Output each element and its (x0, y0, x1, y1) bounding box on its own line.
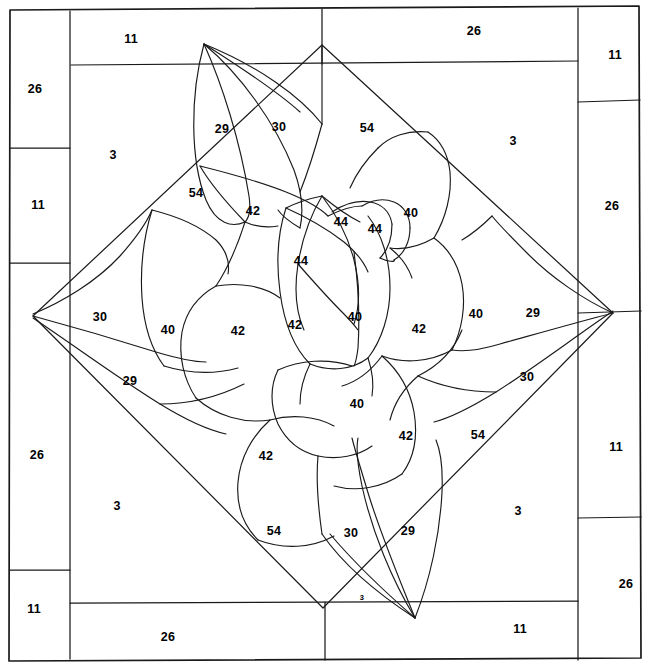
diamond-field-outline (33, 45, 613, 608)
leaf-label-top-left-30: 30 (272, 121, 286, 134)
border-label-right-2: 26 (605, 200, 619, 213)
leaf-label-left-29: 29 (123, 375, 137, 388)
border-label-bottom-2: 11 (513, 623, 527, 636)
quilt-pattern-sheet: 11 26 26 11 26 11 26 11 11 26 11 26 3 3 … (0, 0, 647, 665)
petal-label-right-40: 40 (469, 308, 483, 321)
border-label-left-2: 11 (31, 199, 45, 212)
diamond-label-bottom-left: 54 (267, 525, 281, 538)
petal-label-lower-right-42: 42 (399, 430, 413, 443)
background-label-bottom-right: 3 (514, 505, 521, 518)
border-label-top-2: 26 (467, 25, 481, 38)
background-label-small-wedge: 3 (360, 594, 364, 602)
leaf-group-left (33, 210, 244, 434)
leaf-group-top (194, 44, 322, 228)
background-label-top-left: 3 (109, 149, 116, 162)
border-label-left-3: 26 (30, 449, 44, 462)
petal-label-bottom-40: 40 (350, 398, 364, 411)
diamond-label-top-right: 54 (360, 122, 374, 135)
petal-label-bud-44-a: 44 (334, 216, 348, 229)
petal-label-mid-left-42: 42 (231, 325, 245, 338)
pattern-line-art (0, 0, 647, 665)
border-label-right-4: 26 (619, 578, 633, 591)
petal-label-bud-44-b: 44 (368, 223, 382, 236)
border-label-right-1: 11 (608, 49, 622, 62)
petal-label-center-42: 42 (288, 319, 302, 332)
petal-label-mid-right-42: 42 (412, 323, 426, 336)
petal-label-lower-left-42: 42 (259, 450, 273, 463)
petal-label-upper-right-40: 40 (404, 207, 418, 220)
leaf-label-right-29: 29 (526, 307, 540, 320)
outer-frame (9, 6, 641, 661)
border-label-left-1: 26 (28, 83, 42, 96)
border-label-top-1: 11 (124, 33, 138, 46)
leaf-label-left-30: 30 (93, 311, 107, 324)
leaf-label-bottom-30: 30 (344, 527, 358, 540)
leaf-label-right-30: 30 (520, 371, 534, 384)
border-label-left-4: 11 (27, 603, 41, 616)
petal-label-center-40: 40 (348, 311, 362, 324)
leaf-label-top-left-29: 29 (215, 123, 229, 136)
petal-label-upper-left-42: 42 (246, 205, 260, 218)
border-label-bottom-1: 26 (161, 631, 175, 644)
background-label-bottom-left: 3 (113, 500, 120, 513)
border-seams (10, 8, 641, 660)
petal-label-left-40: 40 (161, 324, 175, 337)
leaf-group-bottom (317, 438, 442, 618)
border-label-right-3: 11 (609, 441, 623, 454)
diamond-label-top-left: 54 (189, 187, 203, 200)
connector-seams (245, 206, 412, 404)
background-label-top-right: 3 (509, 135, 516, 148)
petal-label-bud-44-c: 44 (294, 255, 308, 268)
leaf-label-bottom-29: 29 (401, 525, 415, 538)
diamond-label-bottom-right: 54 (471, 429, 485, 442)
leaf-group-right (418, 216, 613, 422)
